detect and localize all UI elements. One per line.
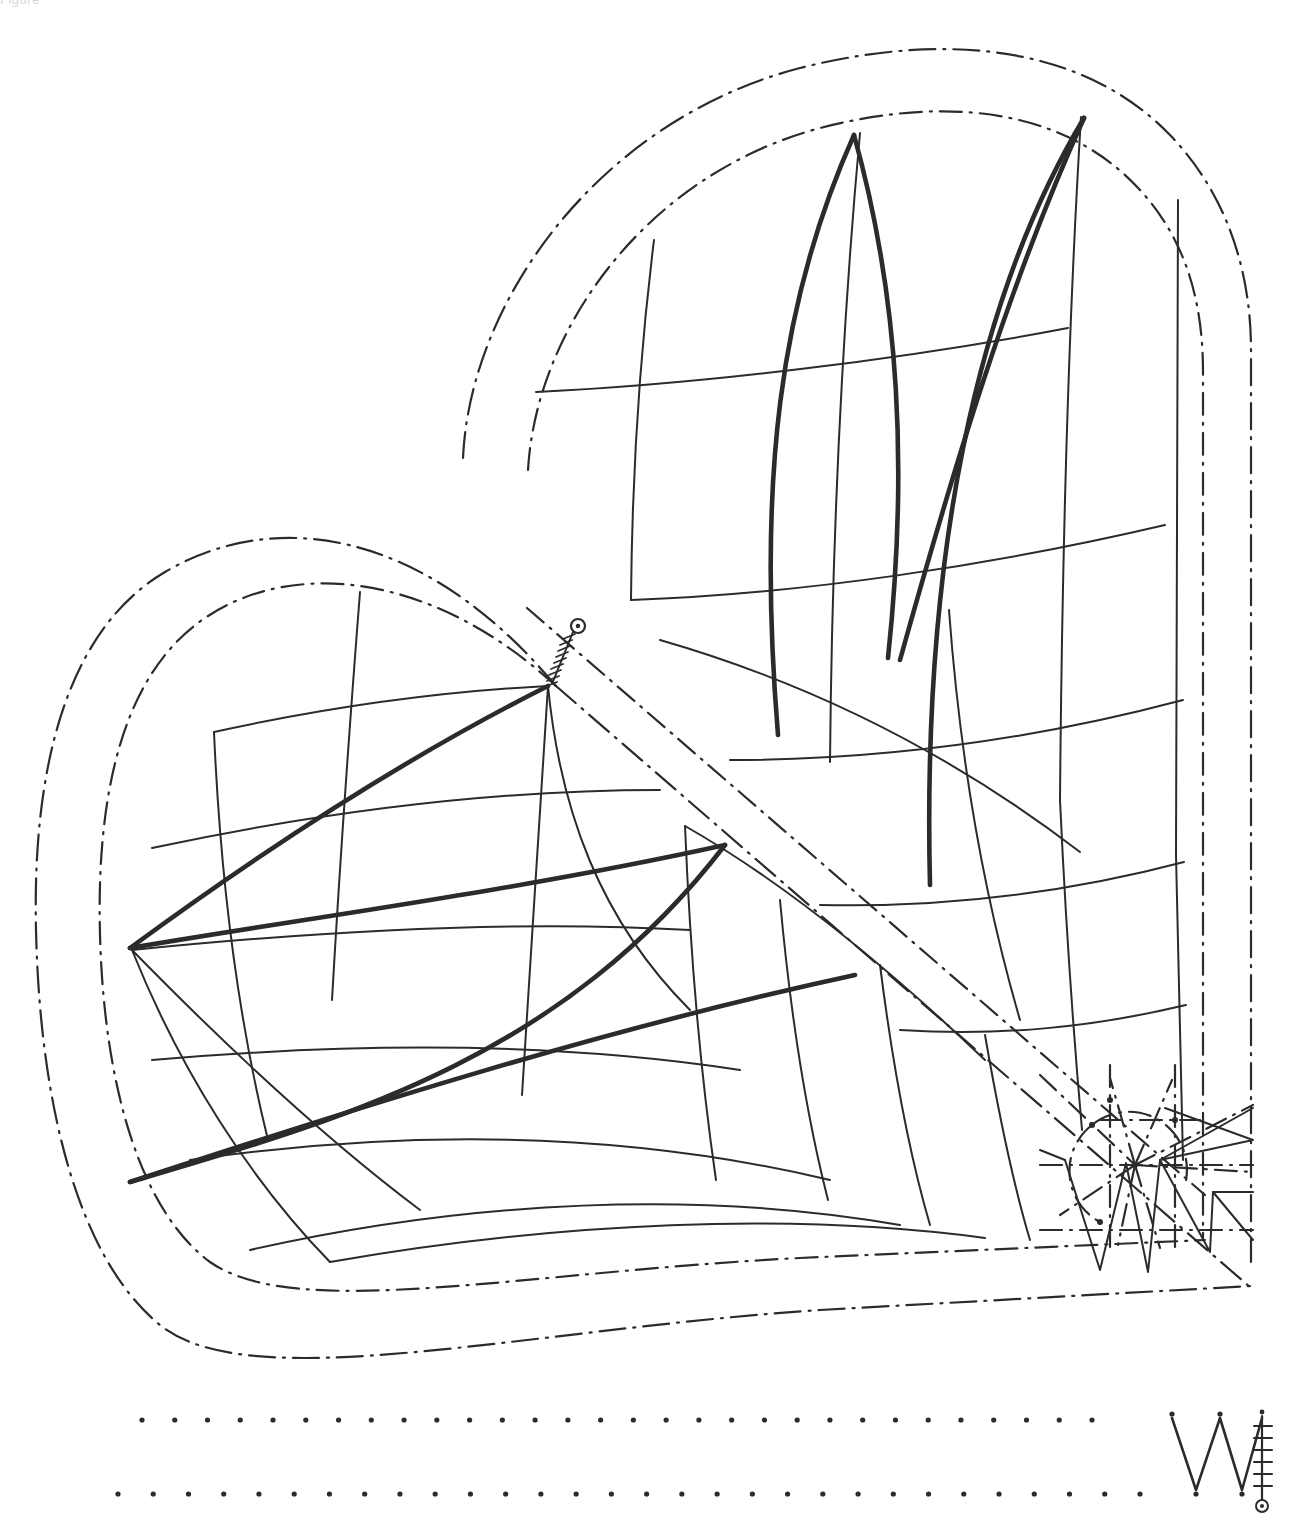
register-dot <box>1032 1491 1037 1496</box>
register-dot <box>115 1491 120 1496</box>
register-dot <box>631 1417 636 1422</box>
register-dot <box>397 1491 402 1496</box>
register-dot <box>362 1491 367 1496</box>
register-dot <box>696 1417 701 1422</box>
register-dot <box>238 1417 243 1422</box>
register-dot <box>533 1417 538 1422</box>
register-dot <box>1089 1417 1094 1422</box>
register-dot <box>785 1491 790 1496</box>
register-dot <box>1102 1491 1107 1496</box>
register-dot <box>186 1491 191 1496</box>
register-dot <box>679 1491 684 1496</box>
register-dot <box>1137 1491 1142 1496</box>
register-dot <box>151 1491 156 1496</box>
register-dot <box>860 1417 865 1422</box>
register-dot <box>538 1491 543 1496</box>
register-dot <box>664 1417 669 1422</box>
register-dot <box>503 1491 508 1496</box>
register-dot <box>369 1417 374 1422</box>
hatch-ladder <box>547 634 575 686</box>
technical-drawing-canvas: .ink { fill:none; stroke:#2b2b2b; } .thi… <box>0 0 1304 1526</box>
register-dot <box>1067 1491 1072 1496</box>
register-dot <box>795 1417 800 1422</box>
register-dot <box>205 1417 210 1422</box>
register-dot <box>433 1491 438 1496</box>
right-lobe-mesh-thin <box>536 117 1186 1160</box>
register-dot <box>500 1417 505 1422</box>
register-dot <box>729 1417 734 1422</box>
register-dot <box>644 1491 649 1496</box>
register-dot <box>1057 1417 1062 1422</box>
register-dot <box>855 1491 860 1496</box>
register-dot <box>926 1491 931 1496</box>
register-dot <box>172 1417 177 1422</box>
register-dot <box>598 1417 603 1422</box>
register-dot <box>958 1417 963 1422</box>
register-dot <box>715 1491 720 1496</box>
register-dot <box>292 1491 297 1496</box>
register-dot <box>336 1417 341 1422</box>
register-dot <box>891 1491 896 1496</box>
register-dot <box>139 1417 144 1422</box>
register-dot <box>996 1491 1001 1496</box>
register-dot-row-lower <box>115 1491 1142 1496</box>
register-dot <box>991 1417 996 1422</box>
register-dot <box>609 1491 614 1496</box>
register-dot <box>327 1491 332 1496</box>
register-dot-row-upper <box>139 1417 1094 1422</box>
register-dot <box>820 1491 825 1496</box>
register-dot <box>256 1491 261 1496</box>
register-dot <box>401 1417 406 1422</box>
register-dot <box>893 1417 898 1422</box>
hinge-marker <box>547 619 585 686</box>
starburst-detail <box>1040 1065 1253 1272</box>
register-dot <box>827 1417 832 1422</box>
register-dot <box>750 1491 755 1496</box>
register-dot <box>270 1417 275 1422</box>
scale-bar <box>1254 1410 1272 1512</box>
w-monogram <box>1169 1411 1262 1496</box>
register-dot <box>1024 1417 1029 1422</box>
register-dot <box>221 1491 226 1496</box>
drawing-page: Figure .ink { fill:none; stroke:#2b2b2b;… <box>0 0 1304 1526</box>
register-dot <box>574 1491 579 1496</box>
register-dot <box>926 1417 931 1422</box>
register-dot <box>565 1417 570 1422</box>
register-dot <box>434 1417 439 1422</box>
register-dot <box>468 1491 473 1496</box>
right-lobe-mesh-thick <box>771 118 1084 885</box>
register-dot <box>762 1417 767 1422</box>
right-lobe-inner-contour <box>528 111 1203 1240</box>
register-dot <box>303 1417 308 1422</box>
register-dot <box>467 1417 472 1422</box>
register-dot <box>961 1491 966 1496</box>
